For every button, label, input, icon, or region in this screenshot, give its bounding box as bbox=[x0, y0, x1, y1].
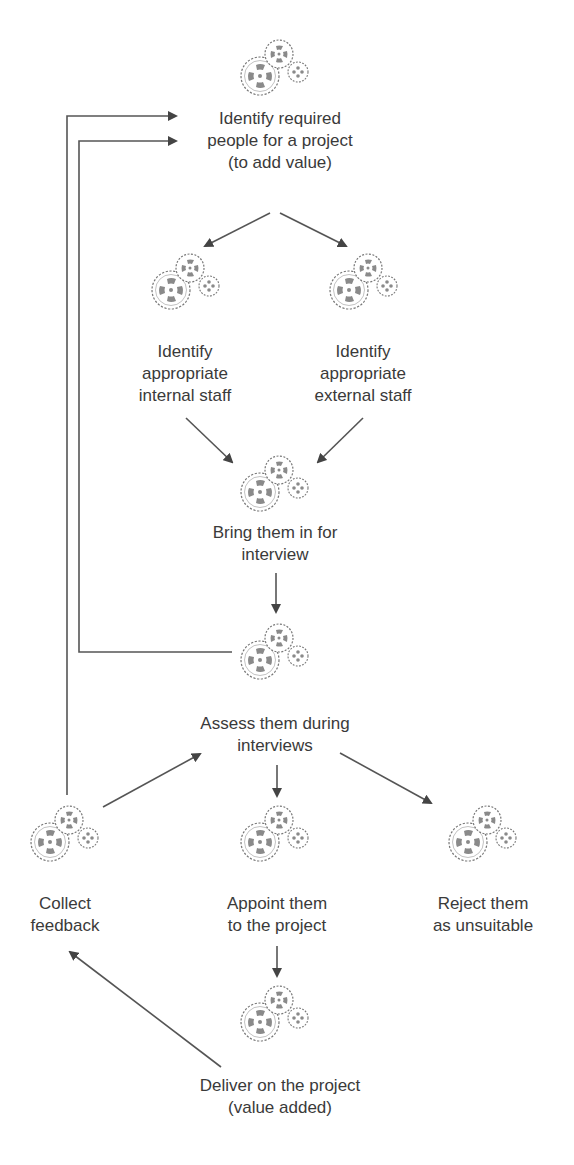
arrow-feedback-to-identify-outer bbox=[67, 116, 176, 795]
arrow-deliver-to-feedback bbox=[70, 952, 221, 1067]
node-reject: Reject them as unsuitable bbox=[403, 893, 563, 937]
node-external-staff: Identify appropriate external staff bbox=[288, 341, 438, 407]
gears-icon bbox=[238, 980, 312, 1044]
arrow-external-to-bring bbox=[318, 418, 363, 462]
gears-icon bbox=[28, 800, 102, 864]
gears-icon bbox=[238, 450, 312, 514]
gears-icon bbox=[238, 618, 312, 682]
gears-icon bbox=[446, 800, 520, 864]
gears-icon bbox=[149, 248, 223, 312]
arrow-identify-to-internal bbox=[205, 213, 270, 246]
flowchart-canvas: Identify required people for a project (… bbox=[0, 0, 574, 1165]
gears-icon bbox=[238, 34, 312, 98]
node-internal-staff: Identify appropriate internal staff bbox=[110, 341, 260, 407]
node-collect-feedback: Collect feedback bbox=[0, 893, 130, 937]
arrow-identify-to-external bbox=[280, 213, 346, 246]
node-identify-people: Identify required people for a project (… bbox=[170, 108, 390, 174]
gears-icon bbox=[238, 800, 312, 864]
node-deliver: Deliver on the project (value added) bbox=[160, 1075, 400, 1119]
node-appoint: Appoint them to the project bbox=[197, 893, 357, 937]
node-assess: Assess them during interviews bbox=[170, 713, 380, 757]
arrow-assess-to-reject bbox=[340, 753, 431, 803]
arrow-feedback-to-assess bbox=[103, 754, 200, 807]
node-bring-in: Bring them in for interview bbox=[180, 522, 370, 566]
arrow-internal-to-bring bbox=[186, 418, 232, 462]
gears-icon bbox=[327, 248, 401, 312]
